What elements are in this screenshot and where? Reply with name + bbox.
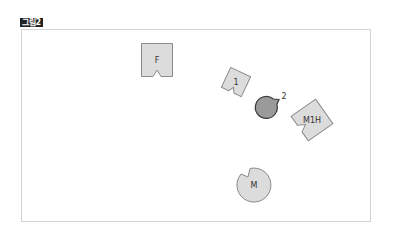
shape-f-label: F [155,56,160,65]
shape-1[interactable]: 1 [221,67,250,96]
shape-m-label: M [251,181,258,190]
shape-m[interactable]: M [237,168,271,202]
diagram-canvas: F 1 2 M1H M [0,0,393,233]
shape-f[interactable]: F [142,44,173,77]
shape-m1h[interactable]: M1H [291,99,333,141]
shape-m1h-label: M1H [303,116,321,125]
shape-2[interactable]: 2 [255,92,286,118]
shape-2-label: 2 [281,92,286,101]
shape-1-label: 1 [233,78,238,87]
